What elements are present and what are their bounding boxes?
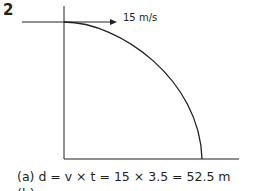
answer-a: (a) d = v × t = 15 × 3.5 = 52.5 m [17,169,231,184]
velocity-label: 15 m/s [123,12,157,23]
arrowhead-icon [110,19,117,25]
answer-b: (b) [17,186,35,191]
projectile-diagram [0,0,254,191]
trajectory-curve [64,22,202,159]
